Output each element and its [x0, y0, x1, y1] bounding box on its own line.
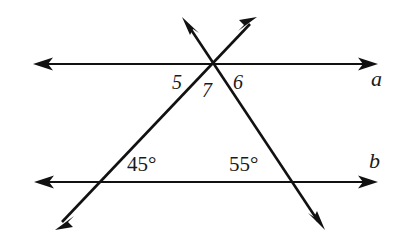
line-label-b: b: [369, 150, 380, 172]
angle-measure-45: 45°: [127, 154, 156, 175]
line-label-a: a: [371, 68, 382, 90]
diagram-svg: [0, 0, 409, 243]
angle-label-5: 5: [172, 72, 182, 92]
angle-measure-55: 55°: [229, 154, 258, 175]
transversal-right-upper-arrowhead: [182, 17, 199, 35]
transversal-left-upper-arrowhead: [238, 17, 257, 31]
line-a: [33, 58, 378, 71]
angle-label-6: 6: [233, 72, 243, 92]
geometry-diagram: 5 7 6 45° 55° a b: [0, 0, 409, 243]
transversal-right: [182, 17, 325, 230]
transversal-right-lower-arrowhead: [308, 211, 325, 230]
transversal-left-segment: [62, 24, 250, 222]
transversal-right-segment: [188, 25, 318, 221]
angle-label-7: 7: [202, 80, 212, 100]
line-b: [34, 176, 378, 189]
transversal-left: [55, 17, 257, 230]
